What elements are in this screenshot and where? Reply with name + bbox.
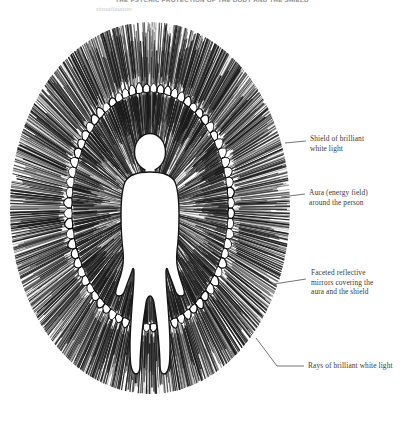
aura-shield-figure: Shield of brilliant white light visualiz…: [0, 12, 300, 422]
annotation-aura: Aura (energy field) around the person: [309, 188, 412, 207]
running-head: THE PSYCHIC PROTECTION OF THE BODY AND T…: [78, 0, 346, 3]
annotation-shield: Shield of brilliant white light: [310, 134, 410, 153]
annotation-mirrors: Faceted reflective mirrors covering the …: [311, 268, 411, 297]
annotation-rays: Rays of brilliant white light: [308, 361, 412, 371]
illustration-page: THE PSYCHIC PROTECTION OF THE BODY AND T…: [0, 0, 412, 438]
